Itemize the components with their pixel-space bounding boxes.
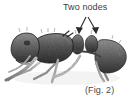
annotation-label-two-nodes: Two nodes <box>63 2 107 12</box>
figure-caption: (Fig. 2) <box>85 85 114 95</box>
postpetiole-node <box>85 36 97 54</box>
compound-eye <box>24 41 30 46</box>
ant-figure-panel: Two nodes (Fig. 2) <box>0 0 133 105</box>
